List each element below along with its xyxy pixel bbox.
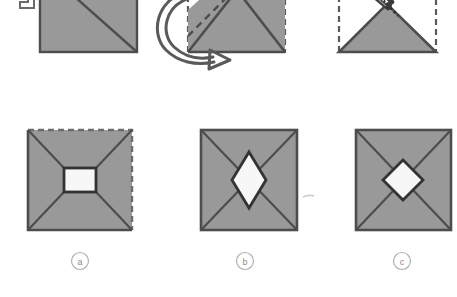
caption-c: c (394, 253, 411, 270)
caption-label: b (242, 257, 247, 267)
caption-label: c (400, 257, 405, 267)
stray-mark (303, 195, 314, 197)
step-2-fold-again (157, 0, 285, 69)
result-b: b (201, 130, 314, 270)
folded-paper-shape (188, 0, 285, 52)
figure-canvas: a b c (0, 0, 457, 297)
caption-b: b (237, 253, 254, 270)
square-hole (64, 168, 96, 192)
caption-label: a (77, 257, 82, 267)
folded-triangle (339, 4, 436, 52)
fold-corner-icon (20, 0, 34, 8)
result-c: c (356, 130, 451, 270)
caption-a: a (72, 253, 89, 270)
step-3-cut-with-scissors (339, 0, 436, 52)
origami-instruction-figure: a b c (0, 0, 457, 297)
result-a: a (28, 130, 132, 270)
step-1-square-folded-once (20, 0, 137, 52)
